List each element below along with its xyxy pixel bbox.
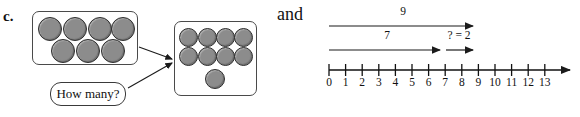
jump-label-unknown-part: ? = 2 bbox=[447, 29, 470, 41]
tick-label: 5 bbox=[409, 76, 415, 88]
tick-label: 13 bbox=[539, 76, 551, 88]
tick-label: 9 bbox=[476, 76, 482, 88]
jump-label-total: 9 bbox=[400, 5, 406, 17]
tick-label: 11 bbox=[506, 76, 517, 88]
how-many-callout-label: How many? bbox=[56, 86, 119, 102]
how-many-callout: How many? bbox=[50, 82, 126, 106]
tick-label: 10 bbox=[489, 76, 501, 88]
arrow-from-start-set bbox=[139, 47, 172, 59]
arrow-from-how-many-callout bbox=[128, 63, 172, 88]
jump-label-known-part: 7 bbox=[384, 29, 390, 41]
tick-label: 12 bbox=[522, 76, 534, 88]
tick-label: 3 bbox=[376, 76, 382, 88]
conjunction-label: and bbox=[277, 4, 303, 25]
worksheet-problem-c: c. How many? and bbox=[0, 0, 580, 117]
flow-arrows-group bbox=[0, 0, 290, 117]
tick-label: 4 bbox=[393, 76, 399, 88]
tick-label: 2 bbox=[359, 76, 365, 88]
tick-label: 8 bbox=[459, 76, 465, 88]
tick-label: 6 bbox=[426, 76, 432, 88]
tick-label: 7 bbox=[442, 76, 448, 88]
tick-label: 1 bbox=[343, 76, 349, 88]
tick-label: 0 bbox=[326, 76, 332, 88]
